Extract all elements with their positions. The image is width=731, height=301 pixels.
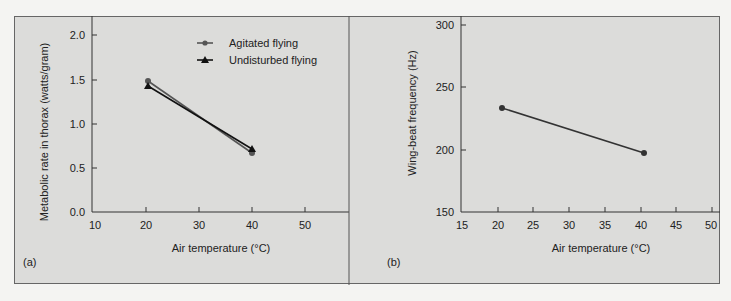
panel-a-y-ticks: 0.0 0.5 1.0 1.5 2.0 bbox=[70, 29, 97, 218]
panel-a-ytick-0: 0.0 bbox=[70, 206, 85, 218]
panel-a-ytick-2: 1.0 bbox=[70, 118, 85, 130]
panel-a-legend: Agitated flying Undisturbed flying bbox=[197, 37, 317, 66]
panel-b-xtick-4: 35 bbox=[599, 219, 611, 231]
data-point bbox=[641, 150, 647, 156]
panel-b-xtick-5: 40 bbox=[635, 219, 647, 231]
panel-b: 150 200 250 300 15 20 25 30 35 40 45 50 … bbox=[387, 16, 720, 268]
panel-b-label: (b) bbox=[387, 256, 400, 268]
panel-b-xtick-0: 15 bbox=[456, 219, 468, 231]
panel-a-xtick-0: 10 bbox=[89, 219, 101, 231]
panel-a: 0.0 0.5 1.0 1.5 2.0 10 20 30 40 50 Air t… bbox=[23, 16, 349, 285]
panel-a-ytick-1: 0.5 bbox=[70, 162, 85, 174]
panel-b-ytick-3: 300 bbox=[436, 19, 454, 31]
panel-b-ytick-1: 200 bbox=[436, 144, 454, 156]
figure-svg: 0.0 0.5 1.0 1.5 2.0 10 20 30 40 50 Air t… bbox=[0, 0, 731, 301]
panel-b-xtick-2: 25 bbox=[527, 219, 539, 231]
panel-a-ytick-4: 2.0 bbox=[70, 29, 85, 41]
panel-b-y-axis-title: Wing-beat frequency (Hz) bbox=[406, 50, 418, 175]
legend-circle-icon bbox=[202, 40, 207, 45]
panel-b-x-axis-title: Air temperature (°C) bbox=[552, 242, 651, 254]
data-point bbox=[499, 105, 505, 111]
panel-a-x-axis-title: Air temperature (°C) bbox=[172, 242, 271, 254]
panel-a-xtick-2: 30 bbox=[193, 219, 205, 231]
panel-b-x-ticks: 15 20 25 30 35 40 45 50 bbox=[456, 207, 717, 231]
legend-undisturbed: Undisturbed flying bbox=[229, 54, 317, 66]
panel-b-ytick-0: 150 bbox=[436, 206, 454, 218]
panel-a-x-ticks: 10 20 30 40 50 bbox=[89, 207, 311, 231]
panel-a-xtick-4: 50 bbox=[299, 219, 311, 231]
panel-b-xtick-3: 30 bbox=[563, 219, 575, 231]
panel-b-ytick-2: 250 bbox=[436, 81, 454, 93]
panel-a-y-axis-title: Metabolic rate in thorax (watts/gram) bbox=[38, 43, 50, 222]
panel-b-xtick-6: 45 bbox=[670, 219, 682, 231]
series-undisturbed-flying bbox=[144, 82, 256, 152]
panel-a-ytick-3: 1.5 bbox=[70, 74, 85, 86]
panel-b-xtick-1: 20 bbox=[492, 219, 504, 231]
panel-a-xtick-1: 20 bbox=[140, 219, 152, 231]
panel-b-xtick-7: 50 bbox=[705, 219, 717, 231]
series-wing-beat bbox=[499, 105, 647, 156]
panel-a-xtick-3: 40 bbox=[246, 219, 258, 231]
panel-a-label: (a) bbox=[23, 256, 36, 268]
legend-agitated: Agitated flying bbox=[229, 37, 298, 49]
data-point bbox=[248, 145, 256, 152]
